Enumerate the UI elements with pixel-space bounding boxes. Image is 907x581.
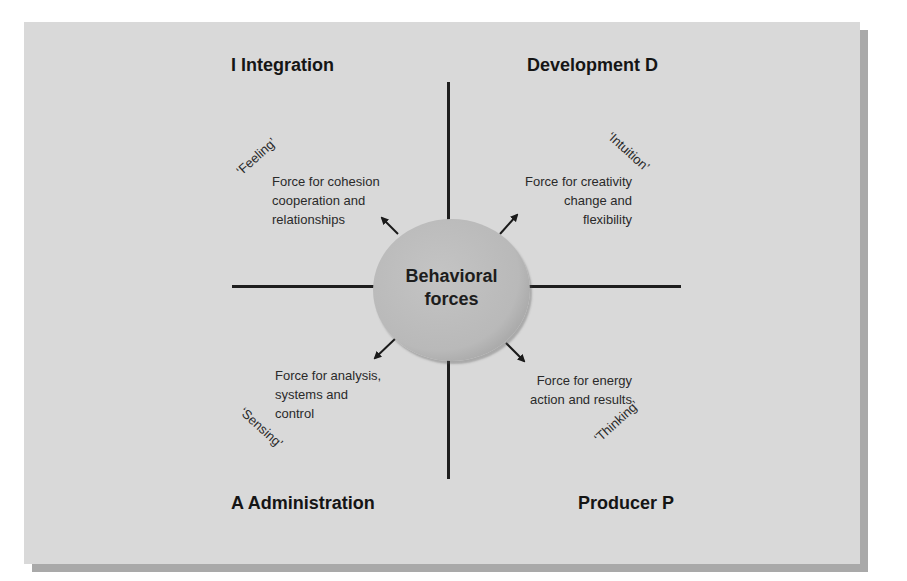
center-label: Behavioral forces bbox=[373, 265, 530, 311]
arrow-down-left-icon bbox=[375, 338, 396, 358]
arrow-up-left-icon bbox=[382, 218, 398, 234]
behavioral-forces-circle: Behavioral forces bbox=[373, 219, 530, 361]
arrow-down-right-icon bbox=[506, 343, 524, 361]
arrow-up-right-icon bbox=[500, 215, 517, 234]
